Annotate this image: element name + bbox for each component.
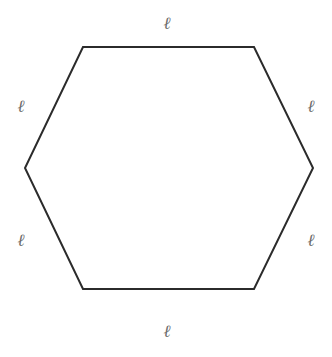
- hexagon-outline: [25, 47, 313, 289]
- side-label-upper-right: ℓ: [307, 96, 314, 116]
- side-label-top: ℓ: [163, 13, 170, 33]
- side-label-bottom: ℓ: [163, 321, 170, 341]
- side-label-upper-left: ℓ: [17, 96, 24, 116]
- side-label-lower-right: ℓ: [307, 230, 314, 250]
- hexagon-diagram: ℓ ℓ ℓ ℓ ℓ ℓ: [0, 0, 332, 357]
- side-label-lower-left: ℓ: [17, 230, 24, 250]
